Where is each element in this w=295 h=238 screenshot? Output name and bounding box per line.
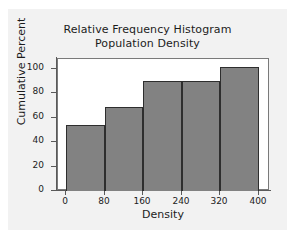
x-tick-label-400: 400 [243,196,273,206]
chart-title-block: Relative Frequency Histogram Population … [8,23,287,51]
x-tick-mark-400 [258,191,259,195]
chart-subtitle: Population Density [8,37,287,51]
y-tick-label-40: 40 [18,136,44,145]
plot-frame [57,58,269,190]
x-tick-label-80: 80 [89,196,119,206]
y-tick-label-20: 20 [18,161,44,170]
histogram-bar [105,107,144,191]
chart-title: Relative Frequency Histogram [8,23,287,37]
x-tick-label-0: 0 [50,196,80,206]
x-tick-mark-320 [219,191,220,195]
histogram-bar [220,67,259,191]
chart-page: Relative Frequency Histogram Population … [0,0,295,238]
x-tick-mark-240 [181,191,182,195]
histogram-bar [66,125,105,191]
y-axis-title: Cumulative Percent [15,12,28,132]
x-tick-label-240: 240 [166,196,196,206]
y-tick-label-0: 0 [18,185,44,194]
x-axis-title: Density [57,208,269,221]
histogram-bar [182,81,221,191]
plot-area [58,59,270,191]
x-tick-mark-160 [142,191,143,195]
x-tick-label-160: 160 [127,196,157,206]
figure-card: Relative Frequency Histogram Population … [8,9,287,230]
x-tick-label-320: 320 [204,196,234,206]
x-tick-mark-80 [104,191,105,195]
x-tick-mark-0 [65,191,66,195]
histogram-bar [143,81,182,191]
